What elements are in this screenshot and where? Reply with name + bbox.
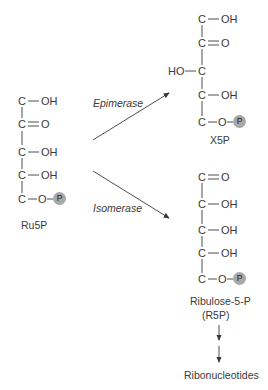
r5p-c4: C bbox=[198, 247, 206, 259]
phosphate-icon: P bbox=[233, 272, 246, 285]
ru5p-c3: C bbox=[18, 146, 26, 158]
x5p-bonds bbox=[185, 19, 233, 122]
x5p-c3-ho: HO bbox=[168, 65, 185, 77]
r5p-c4-oh: OH bbox=[221, 247, 238, 259]
ru5p-label: Ru5P bbox=[21, 219, 47, 231]
ru5p-c5-o: O bbox=[38, 193, 47, 205]
ru5p-c4-oh: OH bbox=[41, 169, 58, 181]
x5p-c1: C bbox=[198, 13, 206, 25]
x5p-c4-oh: OH bbox=[221, 89, 238, 101]
x5p-c4: C bbox=[198, 89, 206, 101]
epimerase-label: Epimerase bbox=[93, 97, 143, 109]
ru5p-c1: C bbox=[18, 95, 26, 107]
r5p-c1-o: O bbox=[221, 171, 230, 183]
ribonucleotides-label: Ribonucleotides bbox=[184, 369, 259, 381]
x5p-c2: C bbox=[198, 37, 206, 49]
x5p-c5: C bbox=[198, 116, 206, 128]
isomerase-label: Isomerase bbox=[93, 202, 142, 214]
x5p-c5-o: O bbox=[218, 116, 227, 128]
ru5p-c3-oh: OH bbox=[41, 146, 58, 158]
r5p-c3: C bbox=[198, 224, 206, 236]
x5p-c1-oh: OH bbox=[221, 13, 238, 25]
x5p-label: X5P bbox=[210, 134, 230, 146]
x5p-c2-o: O bbox=[221, 37, 230, 49]
phosphate-icon: P bbox=[53, 192, 66, 205]
ru5p-c2: C bbox=[18, 118, 26, 130]
phosphate-icon: P bbox=[233, 115, 246, 128]
ru5p-c4: C bbox=[18, 169, 26, 181]
r5p-c2-oh: OH bbox=[221, 198, 238, 210]
r5p-c5-o: O bbox=[218, 273, 227, 285]
r5p-label-abbrev: (R5P) bbox=[202, 309, 229, 321]
r5p-label-name: Ribulose-5-P bbox=[190, 295, 251, 307]
r5p-c3-oh: OH bbox=[221, 224, 238, 236]
ru5p-c5: C bbox=[18, 193, 26, 205]
r5p-c1: C bbox=[198, 171, 206, 183]
ru5p-c1-oh: OH bbox=[41, 95, 58, 107]
ru5p-c2-o: O bbox=[41, 118, 50, 130]
r5p-c2: C bbox=[198, 198, 206, 210]
r5p-c5: C bbox=[198, 273, 206, 285]
x5p-c3: C bbox=[198, 65, 206, 77]
